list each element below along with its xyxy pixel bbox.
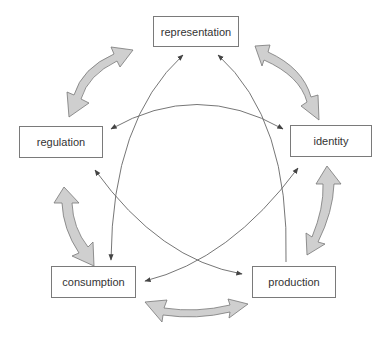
node-regulation: regulation [19,126,103,158]
block-arrow-production-consumption [145,299,248,322]
arrow-production-representation [218,55,286,262]
node-consumption: consumption [51,266,136,298]
block-arrow-consumption-regulation [54,187,94,266]
node-production-label: production [268,276,319,288]
node-identity-label: identity [314,135,349,147]
block-arrow-regulation-representation [67,47,133,117]
node-identity: identity [290,125,372,157]
arrow-representation-consumption [111,55,183,260]
node-production: production [252,266,336,298]
node-regulation-label: regulation [37,136,85,148]
node-consumption-label: consumption [62,276,124,288]
block-arrow-representation-identity [255,45,319,120]
arrow-identity-consumption [145,168,298,281]
node-representation: representation [153,16,239,47]
node-representation-label: representation [161,26,231,38]
block-arrow-identity-production [306,166,341,255]
arrow-regulation-identity [111,105,283,130]
